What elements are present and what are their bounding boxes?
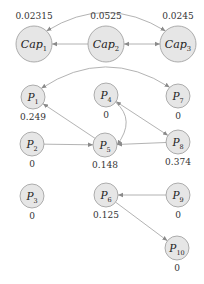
node-p7: P70 (166, 84, 190, 121)
node-cap3: Cap30.0245 (160, 11, 196, 62)
node-cap1: Cap10.02315 (15, 11, 52, 62)
node-p4: P40 (94, 83, 118, 120)
node-value: 0 (29, 159, 35, 169)
node-value: 0 (29, 211, 35, 221)
node-p1: P10.249 (20, 85, 46, 122)
node-p5: P50.148 (92, 133, 118, 170)
node-value: 0 (175, 210, 181, 220)
node-value: 0.374 (165, 157, 191, 167)
node-p8: P80.374 (165, 130, 191, 167)
node-value: 0.148 (92, 160, 118, 170)
node-p10: P100 (165, 236, 189, 273)
node-value: 0 (103, 110, 109, 120)
edge-p8-p5 (117, 142, 166, 144)
node-value: 0.249 (20, 112, 46, 122)
node-value: 0 (174, 263, 180, 273)
node-cap2: Cap20.0525 (88, 11, 124, 62)
edge-p4-p5 (116, 102, 127, 145)
node-p6: P60.125 (93, 183, 119, 220)
node-p3: P30 (20, 184, 44, 221)
node-value: 0 (175, 111, 181, 121)
edge-p4-p8 (116, 102, 168, 136)
node-value: 0.0245 (162, 11, 194, 21)
nodes-layer: Cap10.02315Cap20.0525Cap30.0245P10.249P4… (15, 11, 196, 273)
edge-p5-p1 (43, 104, 95, 139)
node-p2: P20 (20, 132, 44, 169)
edge-p2-p5 (44, 144, 93, 145)
node-value: 0.0525 (90, 11, 122, 21)
network-diagram: Cap10.02315Cap20.0525Cap30.0245P10.249P4… (0, 0, 204, 284)
node-p9: P90 (166, 183, 190, 220)
node-value: 0.02315 (15, 11, 52, 21)
node-value: 0.125 (93, 210, 119, 220)
edge-p6-p10 (116, 202, 168, 241)
